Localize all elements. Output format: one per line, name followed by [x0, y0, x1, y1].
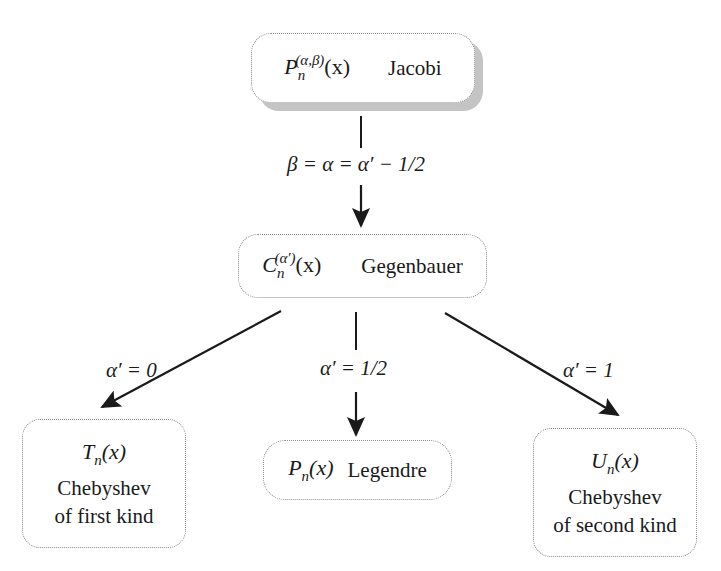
node-legendre: Pn(x) Legendre [263, 440, 452, 500]
edge-label-jacobi-gegenbauer: β = α = α′ − 1/2 [287, 152, 425, 177]
chebyshev-first-name-line2: of first kind [54, 502, 153, 530]
jacobi-name: Jacobi [388, 56, 442, 81]
edge-label-chebyshev-first: α′ = 0 [106, 358, 157, 383]
jacobi-symbol: Pn(α,β)(x) [284, 52, 350, 84]
gegenbauer-symbol: Cn(α′)(x) [262, 250, 321, 282]
edge-label-chebyshev-second: α′ = 1 [563, 358, 614, 383]
chebyshev-second-name-line2: of second kind [553, 511, 677, 539]
legendre-symbol: Pn(x) [288, 455, 333, 485]
edge-label-legendre: α′ = 1/2 [320, 356, 387, 381]
node-chebyshev-first: Tn(x) Chebyshev of first kind [22, 419, 186, 548]
node-jacobi: Pn(α,β)(x) Jacobi [251, 33, 475, 103]
gegenbauer-name: Gegenbauer [361, 254, 462, 279]
chebyshev-first-symbol: Tn(x) [82, 438, 126, 474]
legendre-name: Legendre [348, 458, 427, 483]
chebyshev-first-name-line1: Chebyshev [57, 474, 150, 502]
node-gegenbauer: Cn(α′)(x) Gegenbauer [238, 234, 487, 298]
chebyshev-second-symbol: Un(x) [591, 447, 639, 483]
chebyshev-second-name-line1: Chebyshev [568, 483, 661, 511]
node-chebyshev-second: Un(x) Chebyshev of second kind [533, 428, 697, 557]
